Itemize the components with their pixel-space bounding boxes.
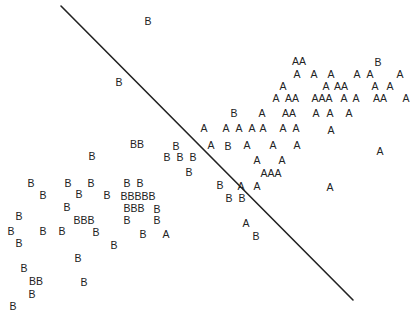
point-class-b: B <box>110 239 117 251</box>
point-class-b: B <box>123 177 130 189</box>
point-class-b: B <box>144 15 151 27</box>
point-class-a: A <box>352 92 359 104</box>
point-class-a: A <box>292 122 299 134</box>
decision-boundary-line <box>61 6 353 300</box>
point-class-a: A <box>322 80 329 92</box>
point-class-b: B <box>80 276 87 288</box>
point-class-b: B <box>163 151 170 163</box>
point-class-a: A <box>293 139 300 151</box>
point-class-b: B <box>27 177 34 189</box>
point-class-a: A <box>293 68 300 80</box>
point-class-b: B <box>28 288 35 300</box>
point-class-a: A <box>326 181 333 193</box>
point-class-b: B <box>39 189 46 201</box>
point-class-a: AA <box>282 107 296 119</box>
point-class-a: AA <box>292 55 306 67</box>
point-class-a: A <box>366 68 373 80</box>
point-class-b: B <box>92 226 99 238</box>
point-class-b: B <box>230 107 237 119</box>
point-class-b: B <box>189 151 196 163</box>
point-class-a: A <box>396 68 403 80</box>
point-class-b: B <box>176 151 183 163</box>
point-class-a: A <box>237 180 244 192</box>
point-class-b: B <box>136 177 143 189</box>
point-class-a: A <box>248 122 255 134</box>
point-class-a: A <box>345 107 352 119</box>
point-class-b: B <box>87 177 94 189</box>
point-class-a: A <box>259 122 266 134</box>
point-class-a: AAA <box>311 92 332 104</box>
point-class-b: B <box>103 189 110 201</box>
point-class-b: B <box>39 225 46 237</box>
scatter-plot: BBAABAAAAAAAAAAAAAAAAAAAAAAABAAAAAAAAAAA… <box>0 0 416 318</box>
point-class-a: A <box>222 122 229 134</box>
point-class-a: A <box>235 122 242 134</box>
point-class-a: A <box>253 180 260 192</box>
point-class-a: A <box>376 145 383 157</box>
point-class-a: A <box>327 68 334 80</box>
point-class-b: B <box>20 262 27 274</box>
point-class-a: A <box>200 122 207 134</box>
point-class-b: B <box>15 237 22 249</box>
point-class-a: A <box>253 154 260 166</box>
point-class-b: B <box>115 76 122 88</box>
point-class-a: AA <box>334 80 348 92</box>
point-class-a: A <box>353 68 360 80</box>
point-class-b: BBB <box>73 214 94 226</box>
point-class-b: B <box>7 225 14 237</box>
point-class-a: A <box>312 107 319 119</box>
point-class-a: A <box>162 228 169 240</box>
point-class-a: A <box>279 80 286 92</box>
point-class-a: A <box>279 122 286 134</box>
point-class-a: A <box>327 124 334 136</box>
point-class-b: B <box>9 300 16 312</box>
point-class-b: B <box>74 252 81 264</box>
point-class-a: A <box>207 139 214 151</box>
point-class-b: B <box>238 192 245 204</box>
point-class-b: B <box>63 201 70 213</box>
point-class-a: A <box>371 80 378 92</box>
point-class-b: B <box>225 192 232 204</box>
point-class-a: AA <box>285 92 299 104</box>
point-class-b: B <box>58 225 65 237</box>
point-class-a: A <box>278 154 285 166</box>
point-class-b: B <box>374 56 381 68</box>
data-points: BBAABAAAAAAAAAAAAAAAAAAAAAAABAAAAAAAAAAA… <box>7 15 409 312</box>
point-class-b: B <box>64 177 71 189</box>
point-class-b: B <box>252 230 259 242</box>
point-class-b: B <box>139 228 146 240</box>
point-class-a: AA <box>373 92 387 104</box>
point-class-b: B <box>75 188 82 200</box>
point-class-b: B <box>88 150 95 162</box>
point-class-b: B <box>153 214 160 226</box>
point-class-b: BB <box>130 138 144 150</box>
point-class-b: B <box>224 140 231 152</box>
point-class-a: A <box>386 80 393 92</box>
point-class-a: A <box>310 68 317 80</box>
point-class-a: A <box>272 92 279 104</box>
point-class-a: AAA <box>260 167 281 179</box>
point-class-a: A <box>269 139 276 151</box>
point-class-b: BB <box>29 275 43 287</box>
point-class-a: A <box>243 139 250 151</box>
point-class-b: BBBBB <box>120 190 155 202</box>
point-class-b: B <box>123 214 130 226</box>
point-class-b: B <box>15 210 22 222</box>
point-class-a: A <box>258 107 265 119</box>
point-class-a: A <box>402 92 409 104</box>
point-class-b: B <box>185 166 192 178</box>
point-class-a: A <box>242 217 249 229</box>
point-class-b: B <box>216 179 223 191</box>
point-class-b: BBB <box>123 202 144 214</box>
point-class-a: A <box>326 107 333 119</box>
point-class-a: A <box>340 92 347 104</box>
